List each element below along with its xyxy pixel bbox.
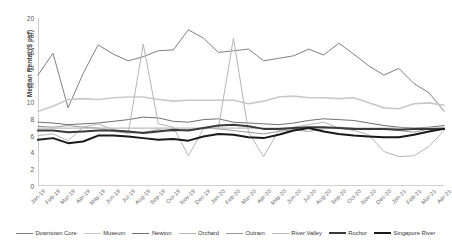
legend-item-singapore-river[interactable]: Singapore River: [374, 230, 435, 236]
plot-area: 02468101214161820: [38, 18, 444, 186]
x-tick-label: Jan-20: [210, 188, 227, 205]
legend-item-river-valley[interactable]: River Valley: [272, 230, 322, 236]
y-tick-label: 18: [27, 31, 34, 38]
legend-item-museum[interactable]: Museum: [84, 230, 126, 236]
legend-swatch-icon: [179, 233, 196, 234]
y-tick-label: 10: [27, 99, 34, 106]
x-tick-label: Nov-19: [179, 188, 196, 205]
legend-item-outram[interactable]: Outram: [226, 230, 265, 236]
x-tick-label: Mar-20: [240, 188, 257, 205]
x-tick-label: Mar-21: [420, 188, 437, 205]
y-tick-label: 20: [27, 15, 34, 22]
legend-label: Museum: [103, 230, 125, 236]
legend-item-downtown-core[interactable]: Downtown Core: [16, 230, 77, 236]
series-lines: [38, 18, 444, 186]
legend-swatch-icon: [132, 233, 149, 234]
legend-label: Rochor: [348, 230, 367, 236]
x-tick-label: Dec-19: [194, 188, 211, 205]
y-tick-label: 8: [30, 115, 34, 122]
legend-swatch-icon: [16, 233, 33, 234]
legend-item-newton[interactable]: Newton: [132, 230, 171, 236]
legend-label: Outram: [246, 230, 265, 236]
x-tick-label: Sep-19: [149, 188, 166, 205]
x-tick-label: Aug-20: [315, 188, 332, 205]
x-tick-label: Mar-19: [59, 188, 76, 205]
x-tick-label: Nov-20: [360, 188, 377, 205]
y-tick-label: 2: [30, 166, 34, 173]
series-line-orchard: [38, 38, 444, 156]
y-tick-label: 4: [30, 149, 34, 156]
chart-legend: Downtown CoreMuseumNewtonOrchardOutramRi…: [0, 230, 451, 236]
legend-item-rochor[interactable]: Rochor: [329, 230, 367, 236]
legend-swatch-icon: [272, 233, 289, 234]
legend-swatch-icon: [329, 232, 346, 234]
x-tick-label: Jan-21: [390, 188, 407, 205]
series-line-museum: [38, 96, 444, 111]
x-tick-label: Aug-19: [134, 188, 151, 205]
legend-label: River Valley: [291, 230, 322, 236]
x-tick-label: May-19: [89, 188, 107, 206]
x-tick-label: Apr-21: [436, 188, 452, 205]
y-tick-label: 6: [30, 132, 34, 139]
y-tick-label: 0: [30, 183, 34, 190]
legend-label: Newton: [152, 230, 172, 236]
x-tick-label: Sep-20: [330, 188, 347, 205]
x-tick-label: Feb-20: [225, 188, 242, 205]
legend-label: Downtown Core: [35, 230, 76, 236]
x-tick-label: Jun-19: [105, 188, 122, 205]
x-tick-label: Jan-19: [29, 188, 46, 205]
legend-swatch-icon: [84, 233, 101, 234]
x-axis-ticks: Jan-19Feb-19Mar-19Apr-19May-19Jun-19Jul-…: [38, 188, 444, 224]
x-tick-label: Dec-20: [375, 188, 392, 205]
x-tick-label: Feb-21: [405, 188, 422, 205]
x-tick-label: Feb-19: [44, 188, 61, 205]
legend-label: Singapore River: [394, 230, 436, 236]
x-tick-label: Oct-20: [345, 188, 362, 205]
legend-swatch-icon: [226, 233, 243, 234]
y-tick-label: 16: [27, 48, 34, 55]
y-tick-label: 12: [27, 82, 34, 89]
y-tick-label: 14: [27, 65, 34, 72]
legend-item-orchard[interactable]: Orchard: [179, 230, 219, 236]
legend-label: Orchard: [198, 230, 219, 236]
x-tick-label: Jun-20: [285, 188, 302, 205]
legend-swatch-icon: [374, 232, 391, 234]
